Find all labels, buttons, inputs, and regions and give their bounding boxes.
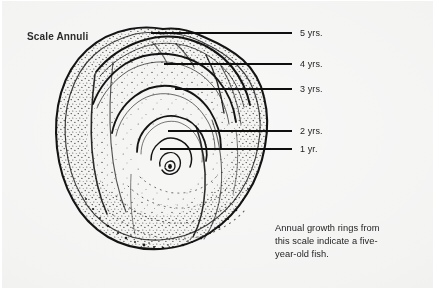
annulus-label-5-yrs: 5 yrs. bbox=[300, 28, 323, 38]
caption-line-2: this scale indicate a five- bbox=[275, 235, 400, 248]
figure-title: Scale Annuli bbox=[27, 31, 88, 42]
annulus-label-3-yrs: 3 yrs. bbox=[300, 84, 323, 94]
figure-caption: Annual growth rings from this scale indi… bbox=[275, 222, 400, 262]
annulus-label-1-yr: 1 yr. bbox=[300, 144, 318, 154]
caption-line-1: Annual growth rings from bbox=[275, 222, 400, 235]
annulus-label-2-yrs: 2 yrs. bbox=[300, 126, 323, 136]
figure-root: Scale Annuli 5 yrs. 4 yrs. 3 yrs. 2 yrs.… bbox=[0, 0, 445, 303]
caption-line-3: year-old fish. bbox=[275, 248, 400, 261]
annulus-label-4-yrs: 4 yrs. bbox=[300, 59, 323, 69]
